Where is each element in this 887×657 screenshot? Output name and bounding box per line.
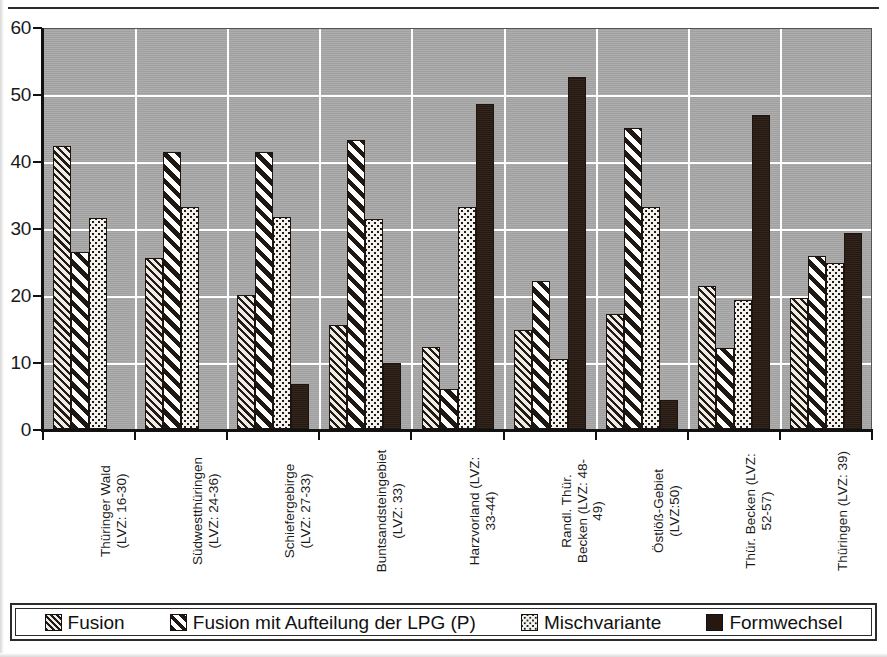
category-label-line: Südwestthüringen <box>190 436 206 586</box>
legend-label: Mischvariante <box>544 613 661 632</box>
x-axis-category-label: Randl. Thür.Becken (LVZ: 48-49) <box>559 436 577 586</box>
legend-swatch-icon <box>170 614 187 631</box>
category-label-line: Thüringer Wald <box>98 436 114 586</box>
y-axis-tick-mark <box>33 295 42 297</box>
category-label-line: Randl. Thür. <box>559 436 575 586</box>
x-axis-category-label: Südwestthüringen(LVZ: 24-36) <box>190 436 208 586</box>
y-axis-tick-label: 30 <box>1 219 31 238</box>
category-label-line: Becken (LVZ: 48- <box>574 436 590 586</box>
bar <box>808 256 826 429</box>
bar <box>844 233 862 429</box>
x-axis-category-label: Thüringen (LVZ: 39) <box>835 436 853 586</box>
bar <box>660 400 678 429</box>
category-label-line: Harzvorland (LVZ: <box>467 436 483 586</box>
bar <box>163 152 181 429</box>
y-axis-tick-mark <box>33 228 42 230</box>
gridline-vertical <box>688 29 690 429</box>
x-axis-line <box>41 429 873 432</box>
bar <box>71 252 89 429</box>
category-label-line: (LVZ: 24-36) <box>206 436 222 586</box>
gridline-vertical <box>411 29 413 429</box>
category-label-line: Thür. Becken (LVZ: <box>743 436 759 586</box>
legend-swatch-icon <box>45 614 62 631</box>
x-axis-category-label: Östlöß-Gebiet(LVZ:50) <box>651 436 669 586</box>
bar <box>458 207 476 429</box>
y-axis-tick-label: 10 <box>1 353 31 372</box>
x-axis-category-labels: Thüringer Wald(LVZ: 16-30)Südwestthüring… <box>43 436 872 586</box>
category-label-line: Buntsandsteingebiet <box>374 436 390 586</box>
y-axis-labels: 0102030405060 <box>0 0 31 460</box>
legend-swatch-icon <box>521 614 538 631</box>
category-label-line: Schiefergebirge <box>282 436 298 586</box>
bar-chart-figure: 0102030405060 Thüringer Wald(LVZ: 16-30)… <box>0 0 887 657</box>
legend-item[interactable]: Fusion <box>45 613 125 632</box>
bar <box>422 347 440 429</box>
y-axis-tick-label: 0 <box>1 420 31 439</box>
gridline-vertical <box>780 29 782 429</box>
bar <box>514 330 532 429</box>
bar <box>329 325 347 429</box>
category-label-line: (LVZ: 16-30) <box>114 436 130 586</box>
bar <box>642 207 660 429</box>
bar <box>237 295 255 429</box>
category-label-line: 33-44) <box>482 436 498 586</box>
bar <box>606 314 624 429</box>
legend-item[interactable]: Formwechsel <box>706 613 842 632</box>
category-label-line: (LVZ: 27-33) <box>298 436 314 586</box>
x-axis-category-label: Thüringer Wald(LVZ: 16-30) <box>98 436 116 586</box>
gridline-vertical <box>319 29 321 429</box>
y-axis-tick-label: 20 <box>1 286 31 305</box>
legend-label: Fusion mit Aufteilung der LPG (P) <box>193 613 476 632</box>
category-label-line: (LVZ:50) <box>666 436 682 586</box>
bar <box>440 389 458 429</box>
plot-area <box>43 28 872 430</box>
category-label-line: Östlöß-Gebiet <box>651 436 667 586</box>
bar <box>145 258 163 429</box>
y-axis-tick-mark <box>33 94 42 96</box>
bar <box>476 104 494 429</box>
bar <box>89 218 107 429</box>
legend-item[interactable]: Fusion mit Aufteilung der LPG (P) <box>170 613 476 632</box>
bar <box>752 115 770 429</box>
gridline-vertical <box>227 29 229 429</box>
bar <box>790 298 808 429</box>
legend-item[interactable]: Mischvariante <box>521 613 661 632</box>
x-axis-category-label: Schiefergebirge(LVZ: 27-33) <box>282 436 300 586</box>
x-axis-category-label: Thür. Becken (LVZ:52-57) <box>743 436 761 586</box>
y-axis-tick-label: 60 <box>1 18 31 37</box>
legend-label: Fusion <box>68 613 125 632</box>
y-axis-tick-mark <box>33 161 42 163</box>
gridline-vertical <box>596 29 598 429</box>
y-axis-tick-label: 40 <box>1 152 31 171</box>
y-axis-tick-mark <box>33 429 42 431</box>
bar <box>53 146 71 429</box>
legend: FusionFusion mit Aufteilung der LPG (P)M… <box>10 603 877 641</box>
bar <box>347 140 365 429</box>
bar <box>181 207 199 429</box>
category-label-line: Thüringen (LVZ: 39) <box>835 436 851 586</box>
bar <box>255 152 273 429</box>
bar <box>624 128 642 429</box>
legend-label: Formwechsel <box>729 613 842 632</box>
x-axis-category-label: Buntsandsteingebiet(LVZ: 33) <box>374 436 392 586</box>
bar <box>291 384 309 429</box>
y-axis-tick-mark <box>33 362 42 364</box>
bar <box>365 219 383 429</box>
bar <box>826 263 844 429</box>
bar <box>568 77 586 429</box>
x-axis-category-label: Harzvorland (LVZ:33-44) <box>467 436 485 586</box>
gridline-vertical <box>504 29 506 429</box>
bar <box>532 281 550 429</box>
bar <box>698 286 716 429</box>
legend-items: FusionFusion mit Aufteilung der LPG (P)M… <box>15 608 872 636</box>
category-label-line: (LVZ: 33) <box>390 436 406 586</box>
category-label-line: 49) <box>590 436 606 586</box>
bar <box>273 217 291 429</box>
legend-swatch-icon <box>706 614 723 631</box>
category-label-line: 52-57) <box>758 436 774 586</box>
bar <box>716 348 734 429</box>
bar <box>383 363 401 429</box>
y-axis-tick-mark <box>33 27 42 29</box>
bar <box>550 359 568 429</box>
y-axis-tick-label: 50 <box>1 85 31 104</box>
